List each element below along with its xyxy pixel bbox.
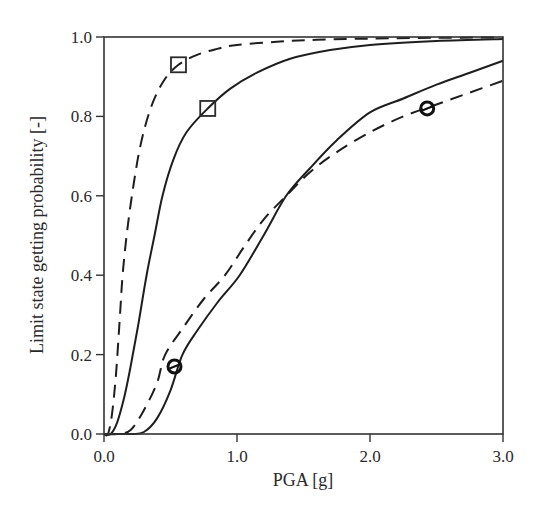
x-tick-label: 2.0 <box>359 447 380 466</box>
y-axis-label: Limit state getting probability [-] <box>27 116 47 354</box>
curve-circle-dashed <box>104 81 503 435</box>
y-tick-label: 0.0 <box>71 425 92 444</box>
plot-area <box>104 37 503 435</box>
curve-square-dashed <box>104 37 503 435</box>
y-tick-label: 1.0 <box>71 28 92 47</box>
curve-square-solid <box>104 39 503 435</box>
y-tick-label: 0.2 <box>71 346 92 365</box>
y-tick-label: 0.6 <box>71 187 92 206</box>
x-axis-label: PGA [g] <box>273 470 334 490</box>
x-tick-label: 1.0 <box>226 447 247 466</box>
curve-circle-solid <box>104 61 503 434</box>
x-tick-label: 3.0 <box>492 447 513 466</box>
fragility-chart: 0.01.02.03.0 0.00.20.40.60.81.0 PGA [g] … <box>0 0 537 521</box>
y-axis-ticks: 0.00.20.40.60.81.0 <box>71 28 104 444</box>
x-tick-label: 0.0 <box>93 447 114 466</box>
axes-frame <box>104 37 503 434</box>
y-tick-label: 0.8 <box>71 107 92 126</box>
x-axis-ticks: 0.01.02.03.0 <box>93 434 513 466</box>
y-tick-label: 0.4 <box>71 266 93 285</box>
